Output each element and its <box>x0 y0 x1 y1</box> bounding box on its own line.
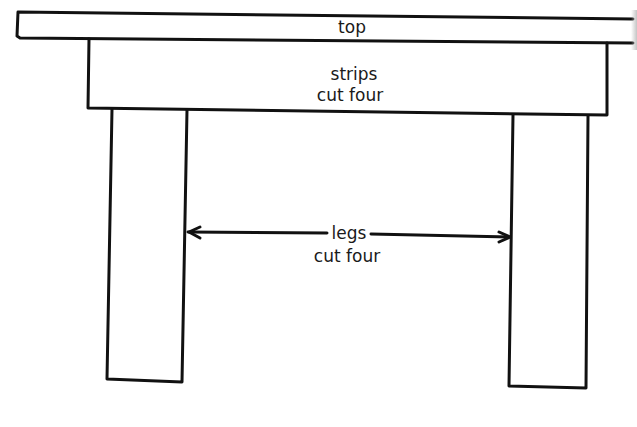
page-edge-shadow <box>631 10 637 50</box>
left-leg <box>107 109 187 382</box>
table-top <box>17 12 633 43</box>
table-diagram: top strips cut four legs cut four <box>0 0 637 427</box>
top-label: top <box>338 17 366 37</box>
legs-quantity-label: cut four <box>314 246 380 266</box>
right-leg <box>509 115 588 388</box>
legs-label: legs <box>332 223 367 243</box>
strips-quantity-label: cut four <box>317 85 383 105</box>
strips-label: strips <box>331 64 378 84</box>
